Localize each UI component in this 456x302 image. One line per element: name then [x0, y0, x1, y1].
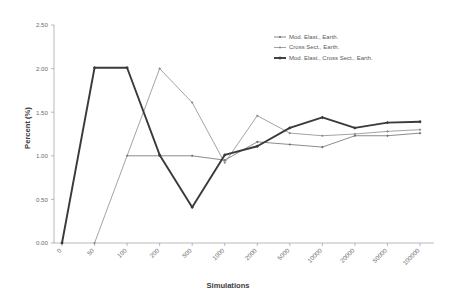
data-point-marker: [93, 66, 96, 69]
x-tick-label: 50: [85, 246, 95, 256]
x-tick-label: 2000: [243, 246, 258, 261]
legend-item-2[interactable]: Mod. Elast., Cross Sect., Earth.: [274, 55, 373, 61]
legend-marker: [279, 46, 282, 49]
x-axis-title: Simulations: [206, 281, 249, 290]
legend-item-1[interactable]: Cross Sect., Earth.: [274, 44, 340, 50]
data-point-marker: [419, 132, 422, 135]
legend-item-0[interactable]: Mod. Elast., Earth.: [274, 34, 339, 40]
x-tick-label: 100000: [401, 246, 421, 266]
x-tick-label: 50000: [371, 246, 389, 264]
legend-label: Mod. Elast., Earth.: [289, 34, 339, 40]
y-axis-title: Percent (%): [23, 107, 32, 149]
data-point-marker: [321, 146, 324, 149]
x-tick-label: 0: [55, 246, 63, 254]
legend-marker: [278, 56, 281, 59]
series-line: [62, 68, 420, 243]
chart-legend: Mod. Elast., Earth.Cross Sect., Earth.Mo…: [274, 34, 373, 61]
legend-label: Cross Sect., Earth.: [289, 44, 340, 50]
legend-marker: [279, 36, 282, 39]
x-tick-label: 10000: [306, 246, 324, 264]
y-tick-label: 1.00: [36, 152, 49, 159]
x-tick-label: 200: [148, 246, 161, 259]
y-axis: 0.000.501.001.502.002.50: [36, 21, 54, 246]
data-point-marker: [289, 143, 292, 146]
y-tick-label: 1.50: [36, 109, 49, 116]
x-tick-label: 20000: [338, 246, 356, 264]
data-point-marker: [60, 241, 63, 244]
legend-label: Mod. Elast., Cross Sect., Earth.: [289, 55, 373, 61]
y-tick-label: 0.00: [36, 239, 49, 246]
y-tick-label: 0.50: [36, 196, 49, 203]
series-layer: [60, 66, 421, 245]
data-point-marker: [418, 120, 421, 123]
x-tick-label: 100: [116, 246, 129, 259]
data-point-marker: [354, 133, 357, 136]
chart-container: 0.000.501.001.502.002.50 050100200500100…: [0, 0, 456, 302]
data-point-marker: [386, 121, 389, 124]
line-chart: 0.000.501.001.502.002.50 050100200500100…: [0, 0, 456, 302]
x-tick-label: 500: [181, 246, 194, 259]
x-tick-label: 1000: [211, 246, 226, 261]
data-point-marker: [321, 134, 324, 137]
series-2: [60, 66, 421, 245]
x-tick-label: 5000: [276, 246, 291, 261]
data-point-marker: [386, 130, 389, 133]
data-point-marker: [386, 134, 389, 137]
data-point-marker: [93, 242, 96, 245]
data-point-marker: [191, 155, 194, 158]
data-point-marker: [419, 128, 422, 131]
y-tick-label: 2.00: [36, 65, 49, 72]
x-axis: 0501002005001000200050001000020000500001…: [54, 243, 434, 266]
y-tick-label: 2.50: [36, 21, 49, 28]
